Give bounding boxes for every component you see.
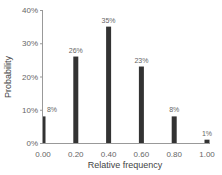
bar-value-label: 23% <box>134 57 148 64</box>
bar <box>73 57 78 143</box>
x-axis-ticks: 0.000.200.400.600.801.00 <box>35 150 215 159</box>
x-tick-label: 0.80 <box>166 150 182 159</box>
y-axis-ticks: 0%10%20%30%40% <box>22 6 43 148</box>
bar <box>139 67 144 143</box>
bar-value-label: 26% <box>69 47 83 54</box>
bar <box>106 27 111 143</box>
y-tick-label: 30% <box>22 39 38 48</box>
bar-value-label: 35% <box>102 17 116 24</box>
bar-value-label: 8% <box>47 106 57 113</box>
bar <box>205 140 210 143</box>
y-axis-title: Probability <box>3 55 13 98</box>
y-tick-label: 0% <box>26 139 38 148</box>
x-tick-label: 0.00 <box>35 150 51 159</box>
y-tick-label: 10% <box>22 106 38 115</box>
x-tick-label: 1.00 <box>199 150 215 159</box>
bar <box>172 116 177 143</box>
plot-area: 8%26%35%23%8%1% <box>43 17 213 143</box>
y-tick-label: 20% <box>22 73 38 82</box>
y-tick-label: 40% <box>22 6 38 15</box>
x-tick-label: 0.40 <box>101 150 117 159</box>
x-tick-label: 0.20 <box>68 150 84 159</box>
bar-chart: 8%26%35%23%8%1% 0%10%20%30%40% 0.000.200… <box>0 0 222 175</box>
x-tick-label: 0.60 <box>134 150 150 159</box>
x-axis-title: Relative frequency <box>88 160 163 170</box>
bar-value-label: 1% <box>202 130 212 137</box>
bar-value-label: 8% <box>169 106 179 113</box>
